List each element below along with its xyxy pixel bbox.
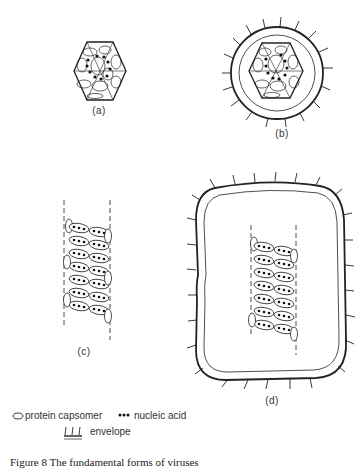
capsomer-legend-icon [13, 413, 23, 419]
legend-capsomer-label: protein capsomer [25, 410, 102, 421]
legend-envelope-label: envelope [90, 426, 131, 437]
envelope-legend-icon [64, 427, 82, 439]
panel-label-b: (b) [275, 128, 289, 139]
panel-label-a: (a) [92, 105, 106, 116]
panel-d-enveloped-helical [187, 172, 355, 389]
nucleic-acid-legend-icon [119, 414, 130, 417]
panel-c-helical-capsid [64, 200, 112, 340]
legend-capsomer: protein capsomer [25, 410, 102, 421]
panel-label-d: (d) [265, 395, 279, 406]
panel-a-icosahedral-capsid [74, 42, 126, 100]
panel-b-enveloped-icosahedral [222, 17, 333, 127]
legend-envelope: envelope [90, 426, 131, 437]
panel-label-c: (c) [77, 346, 90, 357]
legend-nucleic-acid-label: nucleic acid [134, 410, 186, 421]
legend-nucleic-acid: nucleic acid [134, 410, 186, 421]
figure-caption: Figure 8 The fundamental forms of viruse… [10, 456, 199, 468]
